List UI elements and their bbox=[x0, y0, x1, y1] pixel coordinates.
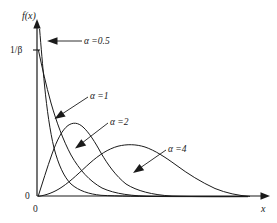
annotation-label-alpha-0_5: α =0.5 bbox=[84, 36, 110, 46]
curve-alpha-1 bbox=[38, 50, 248, 197]
annotation-label-alpha-2: α =2 bbox=[110, 117, 129, 127]
leader-arrowhead-alpha-4 bbox=[133, 164, 144, 173]
x-axis-arrowhead bbox=[261, 192, 271, 199]
leader-line-alpha-2 bbox=[82, 123, 108, 143]
y-origin-label: 0 bbox=[25, 191, 30, 201]
plot-canvas: f(x) x 1/β 0 0 α =0.5 α =1 α =2 α =4 bbox=[0, 0, 277, 223]
curve-alpha-2 bbox=[38, 123, 248, 196]
leader-line-alpha-1 bbox=[62, 97, 88, 114]
x-origin-label: 0 bbox=[33, 204, 38, 214]
leader-arrowhead-alpha-1 bbox=[55, 110, 66, 119]
annotation-label-alpha-1: α =1 bbox=[90, 91, 109, 101]
y-axis-label: f(x) bbox=[22, 10, 37, 22]
gamma-pdf-figure: f(x) x 1/β 0 0 α =0.5 α =1 α =2 α =4 bbox=[0, 0, 277, 223]
curves-group bbox=[38, 29, 250, 197]
x-axis-label: x bbox=[260, 203, 266, 214]
leader-arrowhead-alpha-0_5 bbox=[47, 37, 58, 45]
leader-line-alpha-4 bbox=[140, 150, 166, 168]
y-tick-label-1-over-beta: 1/β bbox=[10, 45, 22, 55]
annotation-leaders-group bbox=[47, 37, 166, 173]
curve-alpha-0_5 bbox=[40, 29, 248, 197]
annotation-label-alpha-4: α =4 bbox=[168, 144, 187, 154]
